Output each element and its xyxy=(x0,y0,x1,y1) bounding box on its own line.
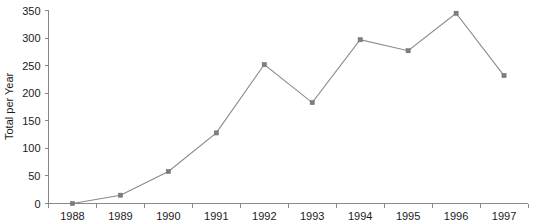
y-tick-label-200: 200 xyxy=(22,87,40,99)
x-tick-label-1991: 1991 xyxy=(204,210,228,222)
data-point-1994: 1994: 297 xyxy=(358,38,362,42)
data-point-1992: 1992: 252 xyxy=(262,62,266,66)
data-point-1988: 1988: 0 xyxy=(70,201,74,205)
x-axis-ticks xyxy=(49,204,529,208)
x-tick-label-1990: 1990 xyxy=(156,210,180,222)
x-tick-label-1989: 1989 xyxy=(108,210,132,222)
y-tick-label-50: 50 xyxy=(28,170,40,182)
data-point-1997: 1997: 232 xyxy=(502,73,506,77)
chart-canvas: Total per Year 050100150200250300350 198… xyxy=(0,0,536,222)
y-tick-label-150: 150 xyxy=(22,115,40,127)
x-axis-labels: 1988198919901991199219931994199519961997 xyxy=(60,210,516,222)
data-point-1996: 1996: 345 xyxy=(454,11,458,15)
line-chart: Total per Year 050100150200250300350 198… xyxy=(0,0,536,222)
data-point-1989: 1989: 15 xyxy=(118,193,122,197)
y-tick-label-100: 100 xyxy=(22,142,40,154)
y-tick-label-0: 0 xyxy=(34,198,40,210)
x-tick-label-1992: 1992 xyxy=(252,210,276,222)
y-tick-label-350: 350 xyxy=(22,5,40,17)
y-tick-label-250: 250 xyxy=(22,60,40,72)
data-point-1990: 1990: 58 xyxy=(166,169,170,173)
data-point-1993: 1993: 183 xyxy=(310,100,314,104)
x-tick-label-1996: 1996 xyxy=(444,210,468,222)
x-tick-label-1997: 1997 xyxy=(492,210,516,222)
x-tick-label-1994: 1994 xyxy=(348,210,372,222)
y-tick-label-300: 300 xyxy=(22,32,40,44)
data-point-1991: 1991: 128 xyxy=(214,131,218,135)
data-point-1995: 1995: 277 xyxy=(406,49,410,53)
x-tick-label-1993: 1993 xyxy=(300,210,324,222)
y-axis-ticks: 050100150200250300350 xyxy=(22,5,48,210)
series-line-total-per-year xyxy=(72,13,504,203)
y-axis-title: Total per Year xyxy=(3,72,15,140)
x-tick-label-1995: 1995 xyxy=(396,210,420,222)
series-markers: 1988: 01989: 151990: 581991: 1281992: 25… xyxy=(70,11,506,205)
x-tick-label-1988: 1988 xyxy=(60,210,84,222)
